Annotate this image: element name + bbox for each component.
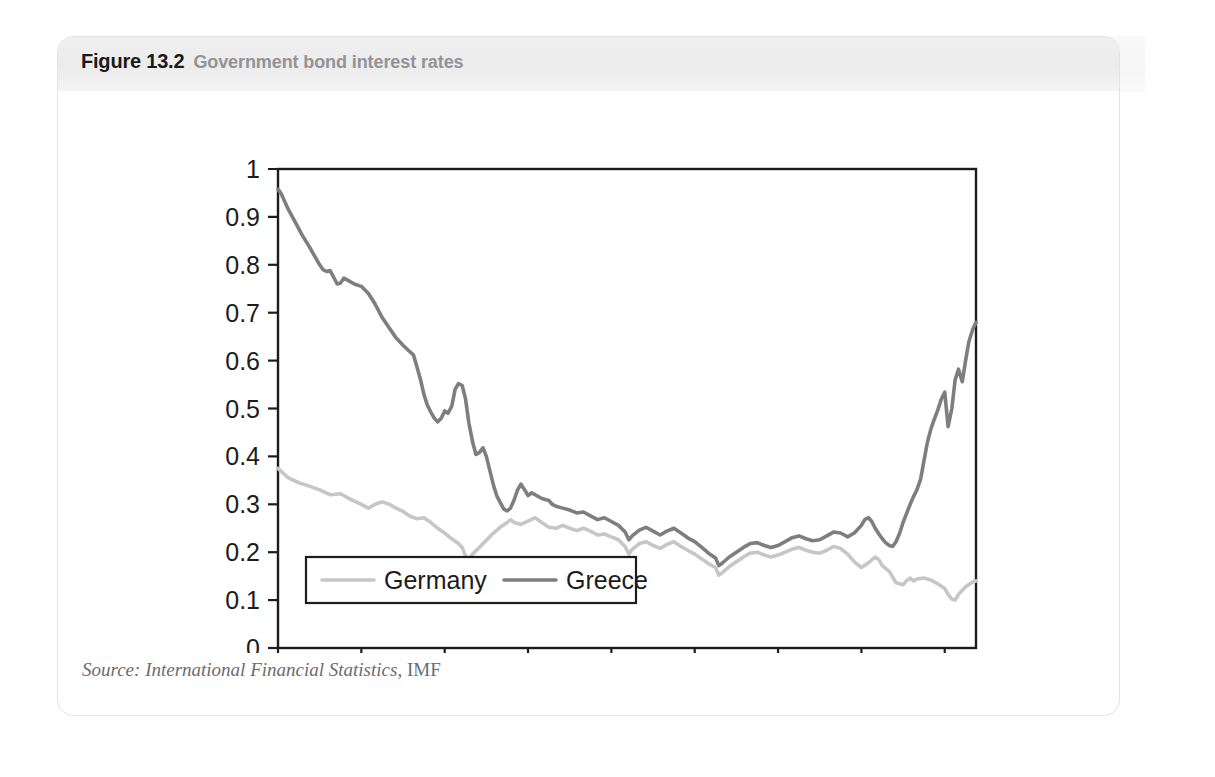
series-line-greece bbox=[278, 189, 976, 565]
y-axis-tick-label: 0.7 bbox=[225, 299, 260, 327]
y-axis-tick-label: 0.6 bbox=[225, 347, 260, 375]
y-axis-tick-label: 0.3 bbox=[225, 490, 260, 518]
figure-header-text: Figure 13.2Government bond interest rate… bbox=[81, 50, 463, 73]
chart-plot-area: 00.10.20.30.40.50.60.70.80.91 1995M11997… bbox=[58, 91, 1119, 653]
line-chart: 00.10.20.30.40.50.60.70.80.91 1995M11997… bbox=[58, 91, 1119, 653]
y-axis-tick-label: 1 bbox=[246, 155, 260, 183]
source-roman-text: , IMF bbox=[397, 659, 440, 680]
figure-caption: Government bond interest rates bbox=[193, 52, 463, 72]
figure-card: Figure 13.2Government bond interest rate… bbox=[57, 36, 1120, 716]
y-axis-tick-label: 0.1 bbox=[225, 586, 260, 614]
y-axis-tick-label: 0.9 bbox=[225, 203, 260, 231]
legend-label-germany: Germany bbox=[384, 566, 487, 594]
y-axis-tick-label: 0.5 bbox=[225, 395, 260, 423]
series-group bbox=[278, 189, 976, 600]
y-axis-tick-label: 0.4 bbox=[225, 442, 260, 470]
y-axis-tick-label: 0.2 bbox=[225, 538, 260, 566]
y-axis-tick-label: 0.8 bbox=[225, 251, 260, 279]
source-italic-text: Source: International Financial Statisti… bbox=[82, 659, 397, 680]
chart-legend: GermanyGreece bbox=[306, 557, 648, 603]
y-axis-tick-label: 0 bbox=[246, 634, 260, 653]
source-note: Source: International Financial Statisti… bbox=[82, 659, 441, 681]
y-axis-ticks-group: 00.10.20.30.40.50.60.70.80.91 bbox=[225, 155, 278, 653]
figure-number: Figure 13.2 bbox=[81, 50, 184, 72]
legend-label-greece: Greece bbox=[566, 566, 648, 594]
figure-header-band: Figure 13.2Government bond interest rate… bbox=[58, 37, 1119, 92]
